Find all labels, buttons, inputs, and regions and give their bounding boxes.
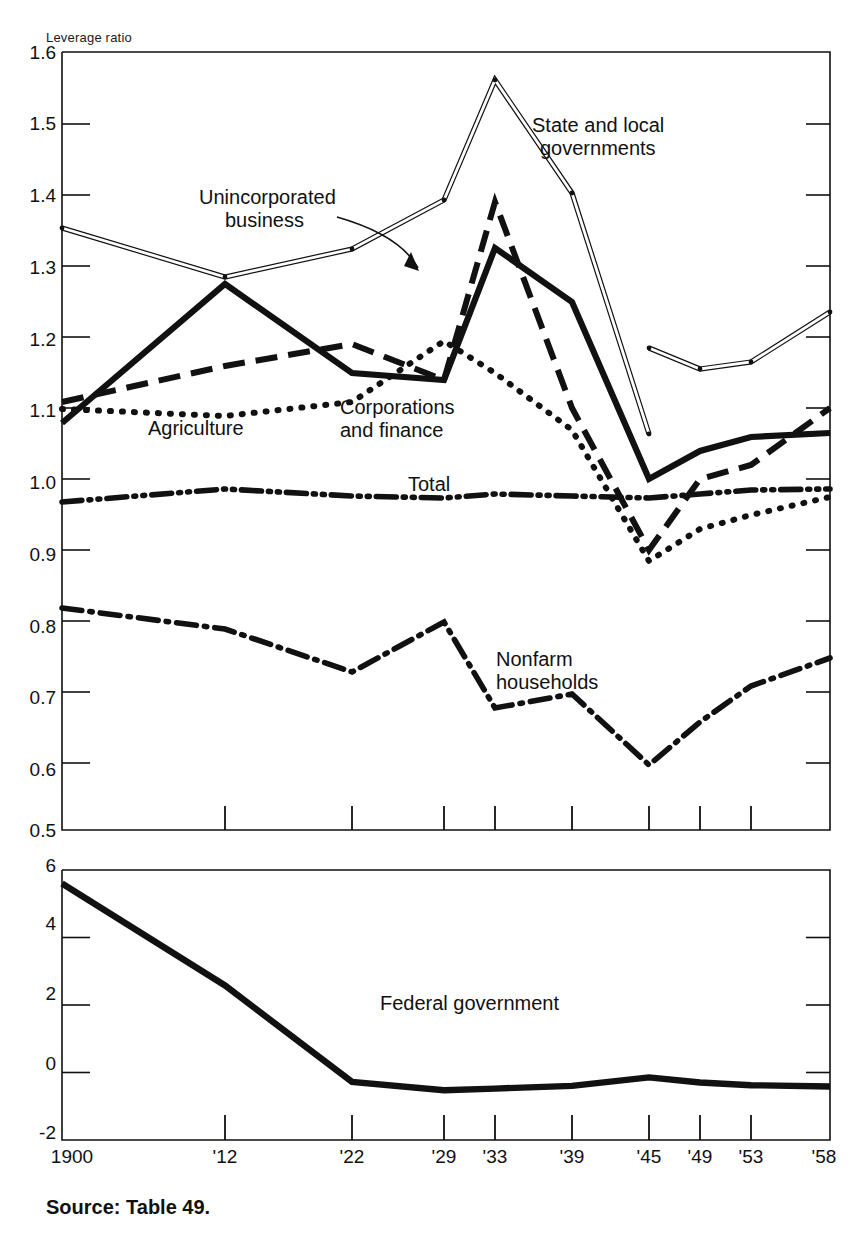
series-nonfarm-households xyxy=(62,608,830,765)
series-label-state-and-local-governments-line2: governments xyxy=(540,137,664,160)
xtick-label-1900: 1900 xyxy=(42,1146,102,1168)
xtick-label-22: '22 xyxy=(324,1146,380,1168)
xtick-label-53: '53 xyxy=(723,1146,779,1168)
series-label-unincorporated-business: Unincorporated business xyxy=(199,186,336,232)
lower-x-tick-marks xyxy=(225,1115,751,1140)
series-label-corporations-and-finance-line1: Corporations xyxy=(340,396,455,419)
xtick-label-45: '45 xyxy=(621,1146,677,1168)
figure-container: Leverage ratio 1.6 1.5 1.4 1.3 1.2 1.1 1… xyxy=(0,0,867,1255)
series-label-total-line1: Total xyxy=(408,473,450,496)
xtick-label-39: '39 xyxy=(544,1146,600,1168)
xtick-label-33: '33 xyxy=(467,1146,523,1168)
upper-x-tick-marks xyxy=(225,806,751,830)
series-label-nonfarm-households: Nonfarm households xyxy=(496,648,598,694)
source-note: Source: Table 49. xyxy=(46,1196,210,1219)
xtick-label-29: '29 xyxy=(416,1146,472,1168)
series-label-state-and-local-governments-line1: State and local xyxy=(532,114,664,137)
upper-y-tick-marks xyxy=(62,124,830,763)
series-label-nonfarm-households-line1: Nonfarm xyxy=(496,648,598,671)
series-label-unincorporated-business-line1: Unincorporated xyxy=(199,186,336,209)
series-label-agriculture-line1: Agriculture xyxy=(148,417,244,440)
series-label-corporations-and-finance: Corporations and finance xyxy=(340,396,455,442)
series-label-unincorporated-business-line2: business xyxy=(225,209,336,232)
series-label-federal-government-line1: Federal government xyxy=(380,992,559,1015)
series-label-agriculture: Agriculture xyxy=(148,417,244,440)
series-label-state-and-local-governments: State and local governments xyxy=(532,114,664,160)
xtick-label-12: '12 xyxy=(197,1146,253,1168)
series-federal-government xyxy=(62,884,830,1091)
series-label-federal-government: Federal government xyxy=(380,992,559,1015)
xtick-label-49: '49 xyxy=(672,1146,728,1168)
series-label-total: Total xyxy=(408,473,450,496)
unincorporated-business-leader-arrow xyxy=(337,217,419,271)
series-label-corporations-and-finance-line2: and finance xyxy=(340,419,455,442)
series-label-nonfarm-households-line2: households xyxy=(496,671,598,694)
xtick-label-58: '58 xyxy=(796,1146,852,1168)
